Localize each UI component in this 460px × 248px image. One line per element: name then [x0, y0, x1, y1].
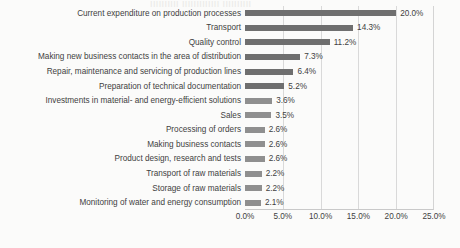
bar-row: Quality control11.2% — [0, 35, 460, 50]
bar-row: Investments in material- and energy-effi… — [0, 93, 460, 108]
category-label: Quality control — [0, 38, 241, 47]
bar — [245, 112, 271, 118]
bar-row: Making new business contacts in the area… — [0, 50, 460, 65]
bar — [245, 141, 265, 147]
bar-row: Transport14.3% — [0, 21, 460, 36]
bar-container: 14.3% — [245, 21, 460, 36]
category-label: Sales — [0, 111, 241, 120]
bar-row: Processing of orders2.6% — [0, 123, 460, 138]
bar-container: 2.6% — [245, 137, 460, 152]
bar-container: 7.3% — [245, 50, 460, 65]
bar-value-label: 2.6% — [269, 154, 288, 163]
bar-value-label: 11.2% — [334, 38, 357, 47]
bar-value-label: 6.4% — [297, 67, 316, 76]
category-label: Storage of raw materials — [0, 184, 241, 193]
x-tick-label: 15.0% — [347, 212, 370, 222]
bar-value-label: 2.6% — [269, 125, 288, 134]
bar-value-label: 3.5% — [275, 111, 294, 120]
bar-container: 11.2% — [245, 35, 460, 50]
bar — [245, 185, 262, 191]
bar-container: 6.4% — [245, 64, 460, 79]
bar-rows: Current expenditure on production proces… — [0, 6, 460, 210]
bar-value-label: 3.6% — [276, 96, 295, 105]
bar — [245, 69, 293, 75]
bar-chart: IIIIIIIIII IIIIIIIIIIIII IIIIIIIIII Curr… — [0, 0, 460, 248]
x-axis: 0.0%5.0%10.0%15.0%20.0%25.0% — [0, 212, 460, 228]
bar-container: 20.0% — [245, 6, 460, 21]
bar-container: 2.2% — [245, 166, 460, 181]
category-label: Making business contacts — [0, 140, 241, 149]
x-tick-label: 0.0% — [236, 212, 255, 222]
category-label: Making new business contacts in the area… — [0, 52, 241, 61]
category-label: Transport — [0, 23, 241, 32]
bar-value-label: 2.6% — [269, 140, 288, 149]
bar-value-label: 2.1% — [265, 198, 284, 207]
bar-row: Storage of raw materials2.2% — [0, 181, 460, 196]
bar-row: Current expenditure on production proces… — [0, 6, 460, 21]
bar — [245, 127, 265, 133]
bar-container: 3.5% — [245, 108, 460, 123]
category-label: Preparation of technical documentation — [0, 82, 241, 91]
category-label: Repair, maintenance and servicing of pro… — [0, 67, 241, 76]
category-label: Investments in material- and energy-effi… — [0, 96, 241, 105]
bar — [245, 39, 330, 45]
category-label: Transport of raw materials — [0, 169, 241, 178]
bar — [245, 98, 272, 104]
x-tick-label: 5.0% — [273, 212, 292, 222]
bar-container: 2.2% — [245, 181, 460, 196]
bar-value-label: 2.2% — [266, 169, 285, 178]
bar-row: Repair, maintenance and servicing of pro… — [0, 64, 460, 79]
bar — [245, 10, 396, 16]
x-tick-label: 20.0% — [385, 212, 408, 222]
x-tick-label: 10.0% — [309, 212, 332, 222]
bar-value-label: 20.0% — [400, 9, 423, 18]
bar — [245, 156, 265, 162]
bar — [245, 83, 284, 89]
bar-row: Product design, research and tests2.6% — [0, 152, 460, 167]
bar-value-label: 14.3% — [357, 23, 380, 32]
bar-row: Preparation of technical documentation5.… — [0, 79, 460, 94]
bar-value-label: 5.2% — [288, 82, 307, 91]
bar-container: 2.1% — [245, 195, 460, 210]
bar — [245, 171, 262, 177]
category-label: Monitoring of water and energy consumpti… — [0, 198, 241, 207]
bar-container: 3.6% — [245, 93, 460, 108]
bar-container: 2.6% — [245, 123, 460, 138]
x-tick-label: 25.0% — [422, 212, 445, 222]
bar-row: Making business contacts2.6% — [0, 137, 460, 152]
bar-row: Transport of raw materials2.2% — [0, 166, 460, 181]
category-label: Current expenditure on production proces… — [0, 9, 241, 18]
bar-value-label: 2.2% — [266, 184, 285, 193]
category-label: Processing of orders — [0, 125, 241, 134]
bar-container: 5.2% — [245, 79, 460, 94]
bar-row: Monitoring of water and energy consumpti… — [0, 195, 460, 210]
bar — [245, 25, 353, 31]
bar — [245, 200, 261, 206]
bar — [245, 54, 300, 60]
bar-container: 2.6% — [245, 152, 460, 167]
bar-value-label: 7.3% — [304, 52, 323, 61]
category-label: Product design, research and tests — [0, 154, 241, 163]
bar-row: Sales3.5% — [0, 108, 460, 123]
